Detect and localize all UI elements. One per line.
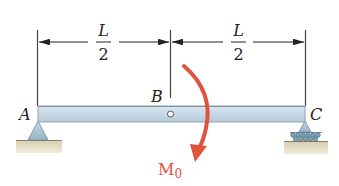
- ground-a: [16, 140, 62, 153]
- dimension-bc-denominator: 2: [233, 45, 243, 64]
- dimension-ab-denominator: 2: [98, 45, 108, 64]
- moment-label-main: M: [158, 160, 174, 179]
- dimension-bc-numerator: L: [232, 21, 244, 40]
- pin-support-icon: [28, 121, 48, 140]
- moment-label: M0: [158, 160, 182, 181]
- ground-c: [284, 141, 328, 154]
- dimension-ab: L 2: [39, 21, 169, 64]
- beam-diagram: L 2 L 2: [0, 0, 339, 186]
- extension-lines: [38, 30, 306, 106]
- dimension-ab-numerator: L: [97, 21, 109, 40]
- moment-label-subscript: 0: [174, 167, 182, 181]
- point-label-b: B: [150, 87, 163, 106]
- roller-support-icon: [290, 121, 322, 141]
- point-b-marker-icon: [168, 111, 174, 117]
- dimension-bc: L 2: [172, 21, 304, 64]
- point-label-c: C: [310, 105, 322, 124]
- point-label-a: A: [17, 105, 31, 124]
